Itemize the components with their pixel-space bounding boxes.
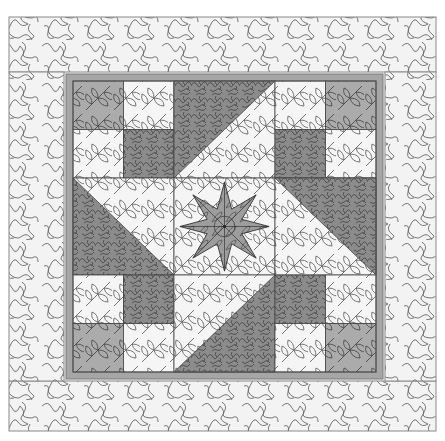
quilt-block-star (174, 178, 275, 275)
quilt-block-four-patch (73, 275, 174, 372)
quilt-block-hst (73, 178, 174, 275)
quilt-block-hst (174, 81, 275, 178)
block-grid (73, 81, 376, 372)
quilt-block-hst (275, 178, 376, 275)
quilt-block-hst (174, 275, 275, 372)
quilt-block-four-patch (275, 81, 376, 178)
quilt-illustration (0, 0, 445, 441)
quilt-block-four-patch (73, 81, 174, 178)
quilt-block-four-patch (275, 275, 376, 372)
